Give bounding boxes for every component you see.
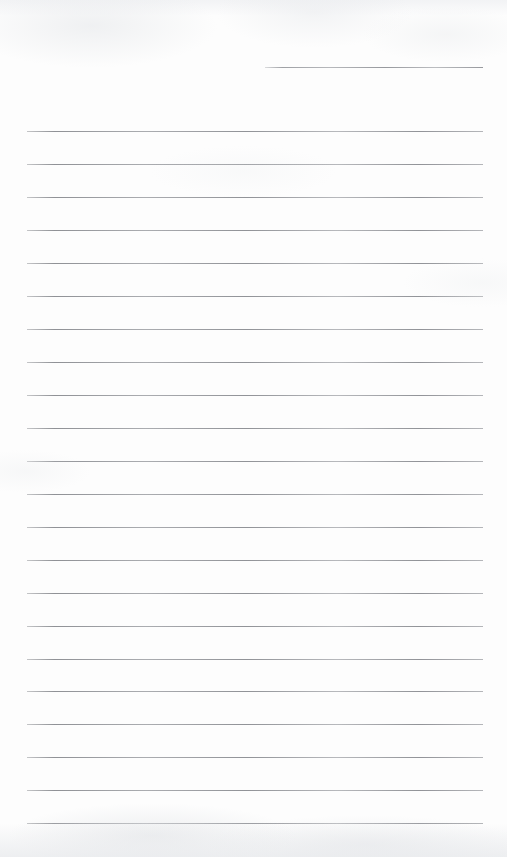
rule-8 <box>27 362 483 363</box>
rule-1 <box>27 131 483 132</box>
rule-18 <box>27 691 483 692</box>
rule-7 <box>27 329 483 330</box>
rule-19 <box>27 724 483 725</box>
scan-edge-bottom <box>0 823 507 857</box>
rule-11 <box>27 461 483 462</box>
rule-17 <box>27 659 483 660</box>
scanned-page <box>0 0 507 857</box>
signature-rule <box>265 67 483 68</box>
rule-12 <box>27 494 483 495</box>
scan-edge-top <box>0 0 507 16</box>
rule-16 <box>27 626 483 627</box>
rule-21 <box>27 790 483 791</box>
rule-2 <box>27 164 483 165</box>
rule-22 <box>27 823 483 824</box>
rule-3 <box>27 197 483 198</box>
rule-6 <box>27 296 483 297</box>
rule-5 <box>27 263 483 264</box>
rule-20 <box>27 757 483 758</box>
rule-9 <box>27 395 483 396</box>
rule-4 <box>27 230 483 231</box>
rule-15 <box>27 593 483 594</box>
rule-13 <box>27 527 483 528</box>
rule-14 <box>27 560 483 561</box>
rule-10 <box>27 428 483 429</box>
